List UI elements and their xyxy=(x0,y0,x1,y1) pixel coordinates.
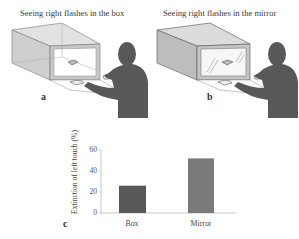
bar-box xyxy=(119,186,146,213)
x-category-label: Box xyxy=(112,219,152,228)
x-category-label: Mirror xyxy=(181,219,221,228)
bar-mirror xyxy=(188,158,214,213)
chart-plot-area xyxy=(0,0,299,239)
